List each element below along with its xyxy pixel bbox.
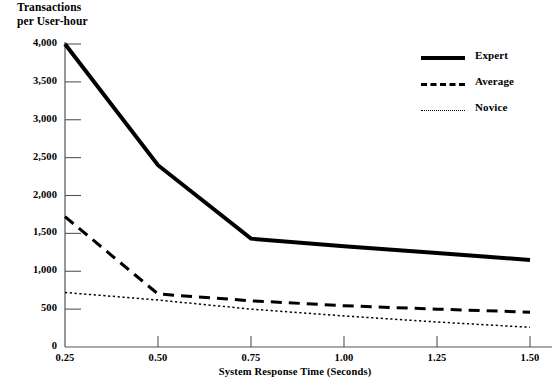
y-axis-tick-label-text: 1,500 [11,226,57,237]
x-axis-tick-label: 0.25 [35,352,95,363]
legend-item-expert[interactable]: Expert [421,48,551,74]
solid-line-swatch-icon [421,56,465,65]
x-axis-tick-label: 1.00 [314,352,374,363]
y-axis-tick-label-text: 0 [11,340,57,351]
legend-label-average: Average [475,75,514,87]
y-axis-tick-label-text: 2,500 [11,151,57,162]
y-axis-tick-label-text: 4,000 [11,37,57,48]
y-axis-title: Transactionsper User-hour [17,1,88,28]
dotted-line-swatch-icon [421,110,465,116]
y-axis-title-line1: Transactions [17,1,81,13]
y-axis-tick-label-text: 1,000 [11,264,57,275]
y-axis-tick-label-text: 3,500 [11,75,57,86]
x-axis-tick-label: 1.50 [500,352,552,363]
legend-item-average[interactable]: Average [421,74,551,100]
x-axis-title-text: System Response Time (Seconds) [181,366,372,377]
series-line-average [65,217,530,312]
y-axis-title-line2: per User-hour [17,15,88,27]
y-axis-tick-label-text: 2,000 [11,189,57,200]
legend-label-expert: Expert [475,49,508,61]
y-axis-tick-label-text: 3,000 [11,113,57,124]
x-axis-tick-label: 0.75 [221,352,281,363]
x-axis-tick-label: 1.25 [407,352,467,363]
chart-legend: Expert Average Novice [421,48,551,126]
chart-container: Transactionsper User-hour 05001,0001,500… [0,0,552,391]
dashed-line-swatch-icon [421,83,465,91]
y-axis-tick-label-text: 500 [11,302,57,313]
x-axis-tick-label: 0.50 [128,352,188,363]
legend-label-novice: Novice [475,101,507,113]
legend-item-novice[interactable]: Novice [421,100,551,126]
x-axis-title: System Response Time (Seconds) [0,366,552,377]
